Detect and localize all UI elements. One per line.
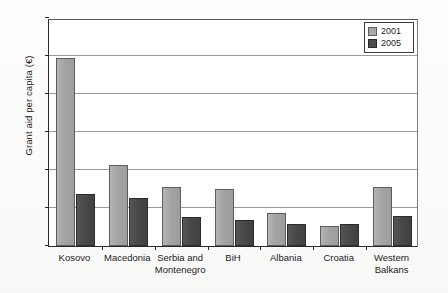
bar-2001-western-balkans	[373, 187, 392, 246]
bar-2005-croatia	[340, 224, 359, 246]
y-tick-mark	[45, 169, 49, 170]
bar-2005-kosovo	[76, 194, 95, 246]
y-tick-mark	[45, 207, 49, 208]
legend-swatch-icon-2005	[368, 39, 377, 48]
x-tick-mark	[155, 246, 156, 250]
bar-2001-albania	[267, 213, 286, 246]
bar-2001-serbia-and-montenegro	[162, 187, 181, 246]
x-tick-mark	[366, 246, 367, 250]
legend-label-2001: 2001	[381, 26, 401, 36]
x-tick-mark	[208, 246, 209, 250]
chart-legend: 2001 2005	[364, 22, 414, 53]
legend-swatch-icon-2001	[368, 27, 377, 36]
legend-item-2005: 2005	[368, 37, 410, 49]
y-tick-mark	[45, 17, 49, 18]
gridline	[49, 55, 417, 56]
x-tick-mark	[313, 246, 314, 250]
bar-2005-western-balkans	[393, 216, 412, 246]
bar-2005-bih	[235, 220, 254, 246]
legend-item-2001: 2001	[368, 25, 410, 37]
bar-2005-albania	[287, 224, 306, 246]
bar-2001-macedonia	[109, 165, 128, 246]
y-tick-mark	[45, 55, 49, 56]
plot-area: 050100150200250300	[48, 19, 418, 247]
x-tick-mark	[102, 246, 103, 250]
bar-2005-serbia-and-montenegro	[182, 217, 201, 246]
bar-2005-macedonia	[129, 198, 148, 246]
bar-2001-kosovo	[56, 58, 75, 246]
x-category-label: Western Balkans	[359, 252, 424, 275]
gridline	[49, 169, 417, 170]
x-tick-mark	[260, 246, 261, 250]
y-tick-mark	[45, 93, 49, 94]
y-axis-title: Grant aid per capita (€)	[23, 16, 34, 196]
bar-2001-croatia	[320, 226, 339, 246]
legend-label-2005: 2005	[381, 38, 401, 48]
y-tick-mark	[45, 245, 49, 246]
gridline	[49, 131, 417, 132]
grant-aid-bar-chart: Grant aid per capita (€) 050100150200250…	[0, 0, 448, 293]
y-tick-mark	[45, 131, 49, 132]
gridline	[49, 93, 417, 94]
bar-2001-bih	[215, 189, 234, 246]
